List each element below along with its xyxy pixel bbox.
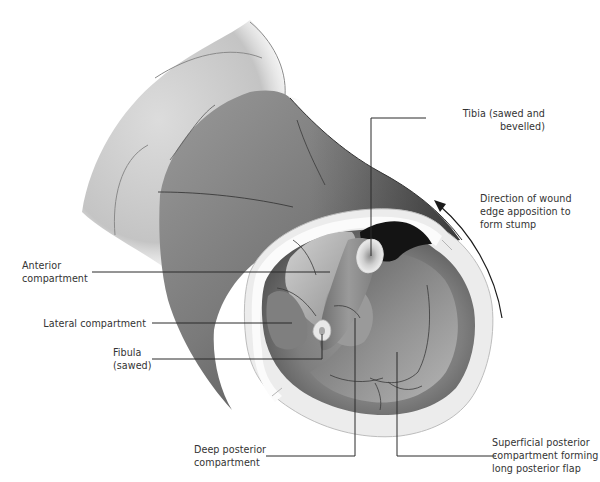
- label-lateral-compartment: Lateral compartment: [30, 317, 146, 330]
- label-deep-posterior-compartment: Deep posterior compartment: [194, 443, 274, 469]
- amputation-diagram: Tibia (sawed and bevelled) Direction of …: [0, 0, 600, 482]
- label-anterior-compartment: Anterior compartment: [22, 259, 102, 285]
- label-superficial-posterior-compartment: Superficial posterior compartment formin…: [492, 436, 600, 475]
- diagram-illustration: [0, 0, 600, 482]
- label-direction: Direction of wound edge apposition to fo…: [480, 192, 600, 231]
- label-fibula: Fibula (sawed): [113, 346, 153, 372]
- label-tibia: Tibia (sawed and bevelled): [425, 107, 545, 133]
- fibula-marrow: [319, 327, 325, 335]
